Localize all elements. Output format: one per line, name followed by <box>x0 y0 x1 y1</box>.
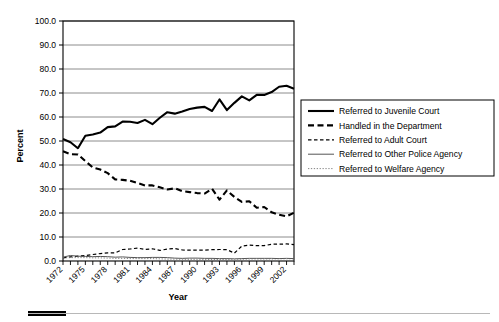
y-tick-label: 100.0 <box>35 16 57 26</box>
x-tick-label: 1972 <box>44 264 65 285</box>
y-tick-label: 80.0 <box>39 64 56 74</box>
x-tick-label: 1981 <box>111 264 132 285</box>
legend-label-1: Handled in the Department <box>339 121 442 131</box>
x-tick-label: 1984 <box>133 264 154 285</box>
y-tick-label: 10.0 <box>39 232 56 242</box>
legend-label-0: Referred to Juvenile Court <box>339 106 440 116</box>
x-tick-label: 1993 <box>200 264 221 285</box>
x-tick-label: 1996 <box>223 264 244 285</box>
y-tick-label: 70.0 <box>39 88 56 98</box>
x-tick-label: 1975 <box>66 264 87 285</box>
legend-label-3: Referred to Other Police Agency <box>339 149 463 159</box>
series-line-1 <box>63 151 294 216</box>
x-axis-title: Year <box>168 292 188 302</box>
x-tick-label: 1987 <box>156 264 177 285</box>
series-line-3 <box>63 255 294 258</box>
x-tick-label: 1990 <box>178 264 199 285</box>
y-tick-label: 40.0 <box>39 160 56 170</box>
y-tick-label: 0.0 <box>44 256 56 266</box>
y-tick-label: 20.0 <box>39 208 56 218</box>
legend-label-4: Referred to Welfare Agency <box>339 164 445 174</box>
x-tick-label: 2002 <box>268 264 289 285</box>
y-tick-label: 60.0 <box>39 112 56 122</box>
footer-rule <box>28 313 490 314</box>
y-tick-label: 30.0 <box>39 184 56 194</box>
y-axis-title: Percent <box>15 129 25 162</box>
chart-figure: 0.010.020.030.040.050.060.070.080.090.01… <box>0 0 499 322</box>
y-tick-label: 50.0 <box>39 136 56 146</box>
y-tick-label: 90.0 <box>39 40 56 50</box>
x-tick-label: 1978 <box>89 264 110 285</box>
legend-label-2: Referred to Adult Court <box>339 135 428 145</box>
x-tick-label: 1999 <box>245 264 266 285</box>
series-line-2 <box>63 244 294 258</box>
line-chart: 0.010.020.030.040.050.060.070.080.090.01… <box>0 0 499 322</box>
